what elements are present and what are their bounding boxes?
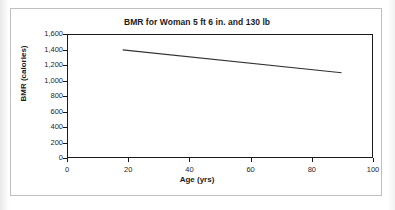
y-axis-ticks: 02004006008001,0001,2001,4001,600 [11, 34, 63, 158]
plot-area [67, 34, 373, 158]
x-axis-title: Age (yrs) [11, 175, 383, 184]
y-tick-label: 1,600 [15, 30, 63, 38]
x-tick-label: 80 [292, 166, 332, 174]
chart-figure: BMR for Woman 5 ft 6 in. and 130 lb BMR … [10, 8, 382, 196]
chart-title: BMR for Woman 5 ft 6 in. and 130 lb [11, 17, 383, 27]
x-tick-mark [128, 158, 129, 162]
y-tick-label: 200 [15, 139, 63, 147]
page-gutter-left [0, 0, 9, 210]
x-tick-label: 20 [108, 166, 148, 174]
plot-line-svg [68, 35, 372, 157]
page-gutter-right [387, 0, 395, 210]
y-tick-label: 400 [15, 123, 63, 131]
x-tick-mark [312, 158, 313, 162]
x-tick-label: 40 [169, 166, 209, 174]
y-tick-label: 1,200 [15, 61, 63, 69]
y-tick-label: 800 [15, 92, 63, 100]
y-tick-label: 0 [15, 154, 63, 162]
y-tick-label: 600 [15, 108, 63, 116]
x-tick-mark [67, 158, 68, 162]
x-tick-mark [189, 158, 190, 162]
y-tick-label: 1,000 [15, 77, 63, 85]
x-tick-label: 100 [353, 166, 393, 174]
x-tick-label: 60 [231, 166, 271, 174]
x-tick-mark [251, 158, 252, 162]
data-series-line [123, 50, 342, 73]
y-tick-label: 1,400 [15, 46, 63, 54]
x-tick-mark [373, 158, 374, 162]
x-tick-label: 0 [47, 166, 87, 174]
